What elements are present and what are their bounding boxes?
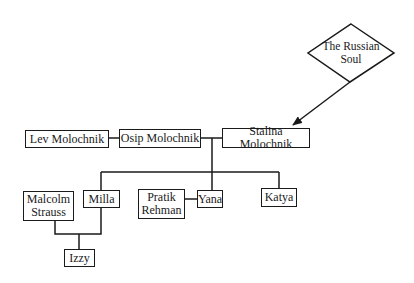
node-label: Osip Molochnik (121, 132, 199, 145)
concept-label-line1: The Russian (316, 40, 386, 53)
arrow-soul-to-stalina (293, 82, 350, 125)
node-label-line2: Strauss (31, 206, 66, 219)
node-label: Milla (89, 193, 115, 206)
node-label: Stalina Molochnik (223, 125, 309, 151)
node-label: Yana (198, 193, 222, 206)
concept-the-russian-soul: The Russian Soul (316, 40, 386, 66)
node-izzy: Izzy (64, 249, 95, 267)
node-label-line2: Rehman (142, 204, 182, 217)
node-label: Izzy (69, 252, 90, 265)
node-milla: Milla (83, 190, 120, 208)
node-osip-molochnik: Osip Molochnik (119, 129, 201, 148)
node-lev-molochnik: Lev Molochnik (25, 130, 109, 148)
node-katya: Katya (261, 188, 297, 207)
node-stalina-molochnik: Stalina Molochnik (222, 128, 310, 148)
concept-label-line2: Soul (316, 53, 386, 66)
node-label: Katya (265, 191, 294, 204)
node-label: Lev Molochnik (30, 133, 104, 146)
node-pratik-rehman: Pratik Rehman (138, 189, 185, 219)
node-yana: Yana (197, 190, 223, 208)
node-malcolm-strauss: Malcolm Strauss (23, 191, 74, 221)
